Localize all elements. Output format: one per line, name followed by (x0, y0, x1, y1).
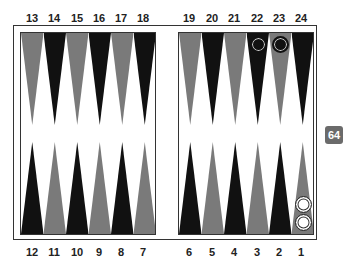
point-label-2: 2 (268, 246, 290, 258)
point-label-7: 7 (132, 246, 154, 258)
point-label-16: 16 (88, 12, 110, 24)
point-10[interactable] (66, 142, 89, 234)
point-label-12: 12 (21, 246, 43, 258)
point-label-15: 15 (66, 12, 88, 24)
point-label-18: 18 (132, 12, 154, 24)
point-24[interactable] (292, 33, 315, 125)
point-2[interactable] (269, 142, 292, 234)
point-label-19: 19 (178, 12, 200, 24)
point-label-11: 11 (43, 246, 65, 258)
point-label-10: 10 (66, 246, 88, 258)
point-label-3: 3 (246, 246, 268, 258)
point-label-24: 24 (290, 12, 312, 24)
point-15[interactable] (66, 33, 89, 125)
point-12[interactable] (21, 142, 44, 234)
point-16[interactable] (89, 33, 112, 125)
point-8[interactable] (111, 142, 134, 234)
right-board-panel (178, 32, 314, 235)
point-4[interactable] (224, 142, 247, 234)
point-18[interactable] (134, 33, 157, 125)
point-9[interactable] (89, 142, 112, 234)
point-label-9: 9 (88, 246, 110, 258)
point-label-17: 17 (110, 12, 132, 24)
light-checker-point-1[interactable] (295, 196, 312, 213)
point-label-22: 22 (246, 12, 268, 24)
dark-checker-point-23[interactable] (272, 36, 289, 53)
doubling-cube[interactable]: 64 (325, 126, 343, 144)
point-label-20: 20 (201, 12, 223, 24)
point-5[interactable] (202, 142, 225, 234)
point-17[interactable] (111, 33, 134, 125)
dark-checker-point-22[interactable] (250, 36, 267, 53)
point-label-21: 21 (223, 12, 245, 24)
point-label-8: 8 (110, 246, 132, 258)
light-checker-point-1[interactable] (295, 214, 312, 231)
point-label-14: 14 (43, 12, 65, 24)
point-label-6: 6 (178, 246, 200, 258)
point-label-5: 5 (201, 246, 223, 258)
point-label-13: 13 (21, 12, 43, 24)
left-board-panel (20, 32, 156, 235)
point-13[interactable] (21, 33, 44, 125)
point-19[interactable] (179, 33, 202, 125)
point-7[interactable] (134, 142, 157, 234)
point-3[interactable] (247, 142, 270, 234)
point-6[interactable] (179, 142, 202, 234)
point-11[interactable] (44, 142, 67, 234)
point-20[interactable] (202, 33, 225, 125)
point-21[interactable] (224, 33, 247, 125)
point-label-1: 1 (290, 246, 312, 258)
point-label-23: 23 (268, 12, 290, 24)
point-14[interactable] (44, 33, 67, 125)
board-bar (157, 30, 177, 237)
point-label-4: 4 (223, 246, 245, 258)
